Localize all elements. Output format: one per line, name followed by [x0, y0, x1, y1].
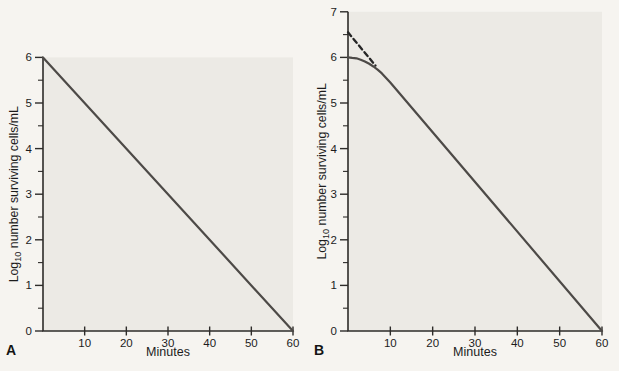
y-tick-label: 6 [331, 51, 337, 63]
y-tick-label: 7 [331, 6, 337, 18]
plot-area-B [348, 12, 602, 331]
y-tick-label: 6 [26, 51, 32, 63]
x-tick-label: 20 [426, 337, 439, 349]
y-tick-label: 2 [26, 234, 32, 246]
y-tick-label: 5 [331, 97, 337, 109]
x-tick-label: 10 [384, 337, 397, 349]
y-tick-label: 3 [331, 188, 337, 200]
x-tick-label: 50 [553, 337, 566, 349]
y-tick-label: 4 [26, 143, 33, 155]
y-tick-label: 1 [26, 279, 32, 291]
x-tick-label: 60 [287, 337, 300, 349]
y-tick-label: 2 [331, 234, 337, 246]
x-tick-label: 60 [596, 337, 609, 349]
x-axis-title-a: Minutes [146, 345, 190, 359]
y-tick-label: 4 [331, 143, 338, 155]
panel-label-a: A [6, 342, 16, 358]
y-tick-label: 1 [331, 279, 337, 291]
y-axis-title-A: Log10 number surviving cells/mL [7, 106, 23, 282]
y-tick-label: 3 [26, 188, 32, 200]
x-tick-label: 20 [120, 337, 133, 349]
survivor-curve-charts: 1020304050600123456Log10 number survivin… [0, 0, 619, 371]
y-tick-label: 0 [331, 325, 337, 337]
panel-label-b: B [314, 342, 324, 358]
y-tick-label: 5 [26, 97, 32, 109]
y-axis-title-B: Log10 number surviving cells/mL [315, 83, 331, 259]
x-tick-label: 10 [78, 337, 91, 349]
x-tick-label: 50 [245, 337, 258, 349]
y-tick-label: 0 [26, 325, 32, 337]
x-tick-label: 40 [203, 337, 216, 349]
scanned-figure-page: 1020304050600123456Log10 number survivin… [0, 0, 619, 371]
x-tick-label: 40 [511, 337, 524, 349]
x-axis-title-b: Minutes [453, 345, 497, 359]
